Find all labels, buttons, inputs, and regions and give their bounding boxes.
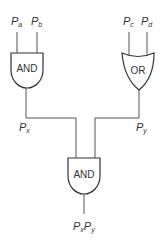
- label-py: Py: [136, 121, 147, 135]
- output-label-pxpy: PxPy: [73, 220, 95, 234]
- label-px: Px: [19, 121, 30, 134]
- input-label-pd: Pd: [141, 15, 153, 28]
- and-gate-3-label: AND: [73, 169, 94, 180]
- logic-circuit-diagram: Pa Pb Pc Pd AND OR Px Py AND PxPy: [0, 0, 168, 248]
- input-label-pb: Pb: [31, 15, 42, 28]
- input-label-pa: Pa: [11, 15, 22, 28]
- wire-py: [95, 90, 139, 158]
- wire-px: [26, 88, 76, 158]
- and-gate-1-label: AND: [16, 63, 37, 74]
- or-gate-label: OR: [131, 65, 146, 76]
- input-label-pc: Pc: [123, 15, 134, 28]
